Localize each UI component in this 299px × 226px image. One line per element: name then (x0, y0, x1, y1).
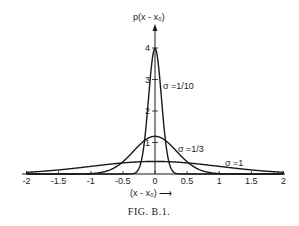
x-tick-label: -1 (87, 176, 95, 186)
x-tick-label: 0.5 (181, 176, 194, 186)
series-label-sigma-one: σ =1 (225, 158, 243, 168)
x-tick-label: -1.5 (51, 176, 67, 186)
x-tick-label: -0.5 (115, 176, 131, 186)
figure-caption: FIG. B.1. (128, 206, 170, 217)
y-tick-label: 4 (145, 43, 150, 53)
x-tick-label: 1 (217, 176, 222, 186)
axes (22, 24, 285, 174)
y-axis-arrow-icon (153, 24, 158, 31)
x-tick-label: 2 (281, 176, 286, 186)
x-tick-label: 1.5 (245, 176, 258, 186)
series-label-sigma-tenth: σ =1/10 (163, 81, 194, 91)
series-label-sigma-third: σ =1/3 (178, 144, 204, 154)
x-ticks: -2-1.5-1-0.500.511.52 (22, 171, 286, 186)
y-ticks: 1234 (145, 43, 158, 148)
y-axis-label: p(x - x₀) (133, 12, 165, 22)
gaussian-chart: -2-1.5-1-0.500.511.52 1234 p(x - x₀) (x … (0, 0, 299, 226)
x-tick-label: 0 (152, 176, 157, 186)
x-axis-label: (x - x₀) ⟶ (130, 188, 172, 198)
x-tick-label: -2 (22, 176, 30, 186)
